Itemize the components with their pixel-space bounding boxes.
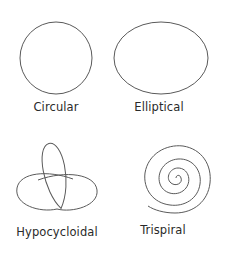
label-hypocycloidal: Hypocycloidal [2,225,112,239]
trispiral-shape [145,146,211,213]
label-circular: Circular [1,100,111,114]
label-elliptical: Elliptical [104,100,214,114]
hypocycloidal-shape [17,142,97,210]
circular-shape [20,22,92,94]
elliptical-shape [114,22,208,94]
shapes-diagram [0,0,226,254]
label-trispiral: Trispiral [108,223,218,237]
